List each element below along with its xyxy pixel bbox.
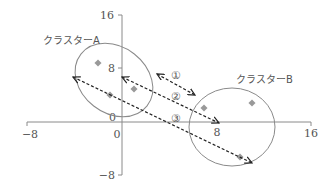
cluster-a-label: クラスターA bbox=[43, 35, 100, 46]
y-tick-label: −8 bbox=[99, 169, 115, 182]
arrow-3 bbox=[73, 77, 252, 163]
arrow-1-label: ① bbox=[171, 69, 181, 82]
cluster-diagram: −8 0 8 16 16 8 0 −8 クラスターA クラスターB ① ② bbox=[0, 0, 334, 189]
cluster-a: クラスターA bbox=[43, 28, 167, 132]
x-tick-label: 8 bbox=[214, 126, 221, 139]
y-tick-label: 16 bbox=[100, 9, 114, 22]
data-point bbox=[200, 104, 207, 111]
svg-text:③: ③ bbox=[171, 112, 181, 125]
arrow-3-label: ③ bbox=[171, 112, 181, 125]
x-tick-label: 0 bbox=[114, 128, 121, 141]
x-tick-label: 16 bbox=[304, 127, 318, 140]
data-point bbox=[248, 99, 255, 106]
data-point bbox=[130, 85, 137, 92]
cluster-b-label: クラスターB bbox=[236, 74, 293, 85]
y-tick-label: 8 bbox=[108, 62, 115, 75]
arrow-2-label: ② bbox=[171, 90, 181, 103]
x-tick-label: −8 bbox=[22, 128, 38, 141]
cluster-b: クラスターB bbox=[189, 74, 293, 166]
y-tick-label: 0 bbox=[109, 111, 116, 124]
svg-text:①: ① bbox=[171, 69, 181, 82]
cluster-b-ellipse bbox=[189, 88, 275, 166]
distance-arrows: ① ② ③ bbox=[73, 69, 252, 163]
data-point bbox=[94, 59, 101, 66]
svg-text:②: ② bbox=[171, 90, 181, 103]
